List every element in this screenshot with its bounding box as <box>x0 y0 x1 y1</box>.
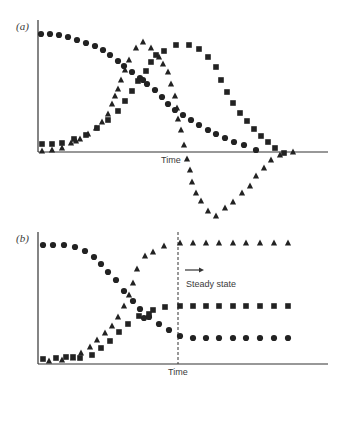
circle-marker <box>105 269 111 275</box>
circle-marker <box>188 117 194 123</box>
circle-marker <box>243 335 249 341</box>
triangle-marker <box>109 101 115 107</box>
arrow-right-icon <box>185 268 204 273</box>
square-marker <box>213 64 219 70</box>
circle-marker <box>83 40 89 46</box>
square-marker <box>251 126 257 132</box>
triangle-marker <box>77 136 83 142</box>
x-label-b: Time <box>168 367 188 377</box>
circle-marker <box>253 147 259 153</box>
circle-marker <box>231 139 237 145</box>
circle-marker <box>113 277 119 283</box>
circle-marker <box>230 335 236 341</box>
panel-a-label: (a) <box>16 20 29 33</box>
circle-marker <box>156 321 162 327</box>
circle-marker <box>222 135 228 141</box>
triangle-marker <box>105 111 111 117</box>
triangle-marker <box>175 116 181 122</box>
circle-marker <box>152 87 158 93</box>
square-marker <box>94 125 100 131</box>
square-marker <box>59 140 65 146</box>
circle-marker <box>144 81 150 87</box>
square-marker <box>98 345 104 351</box>
square-marker <box>153 52 159 58</box>
circle-marker <box>129 69 135 75</box>
square-marker <box>125 321 131 327</box>
x-label-a: Time <box>161 155 181 165</box>
circle-marker <box>100 47 106 53</box>
triangle-marker <box>126 292 132 298</box>
triangle-marker <box>121 303 127 309</box>
square-marker <box>83 132 89 138</box>
triangle-marker <box>160 61 166 67</box>
circle-marker <box>159 94 165 100</box>
circle-marker <box>91 254 97 260</box>
circle-marker <box>166 327 172 333</box>
triangle-marker <box>198 198 204 204</box>
circle-marker <box>47 31 53 37</box>
square-marker <box>122 98 128 104</box>
square-marker <box>224 89 230 95</box>
triangle-marker <box>94 337 100 343</box>
triangle-marker <box>216 240 222 246</box>
circle-marker <box>74 37 80 43</box>
square-marker <box>148 59 154 65</box>
triangle-marker <box>222 205 228 211</box>
triangle-marker <box>115 314 121 320</box>
square-marker <box>230 303 236 309</box>
panel-a: (a) Time <box>16 20 328 218</box>
triangle-marker <box>39 148 45 154</box>
triangle-marker <box>102 330 108 336</box>
triangle-marker <box>261 165 267 171</box>
circle-marker <box>38 31 44 37</box>
triangle-marker <box>181 142 187 148</box>
square-marker <box>190 303 196 309</box>
triangle-marker <box>134 266 140 272</box>
square-marker <box>53 355 59 361</box>
circle-marker <box>177 333 183 339</box>
figure: (a) Time (b) Steady state Time <box>0 0 342 442</box>
triangle-marker <box>193 190 199 196</box>
square-marker <box>150 307 156 313</box>
data-points-b <box>40 240 291 364</box>
triangle-marker <box>78 350 84 356</box>
panel-b: (b) Steady state Time <box>16 232 328 377</box>
circle-marker <box>61 242 67 248</box>
square-marker <box>49 141 55 147</box>
data-points-a <box>38 31 296 219</box>
square-marker <box>203 303 209 309</box>
triangle-marker <box>285 240 291 246</box>
circle-marker <box>56 32 62 38</box>
triangle-marker <box>187 167 193 173</box>
triangle-marker <box>230 240 236 246</box>
triangle-marker <box>203 240 209 246</box>
square-marker <box>244 118 250 124</box>
square-marker <box>258 133 264 139</box>
square-marker <box>129 88 135 94</box>
circle-marker <box>216 335 222 341</box>
circle-marker <box>213 131 219 137</box>
circle-marker <box>285 335 291 341</box>
circle-marker <box>65 34 71 40</box>
triangle-marker <box>239 190 245 196</box>
square-marker <box>71 136 77 142</box>
square-marker <box>196 46 202 52</box>
triangle-marker <box>150 249 156 255</box>
circle-marker <box>98 261 104 267</box>
triangle-marker <box>99 119 105 125</box>
triangle-marker <box>133 45 139 51</box>
square-marker <box>39 141 45 147</box>
triangle-marker <box>243 240 249 246</box>
triangle-marker <box>130 280 136 286</box>
square-marker <box>243 303 249 309</box>
circle-marker <box>115 58 121 64</box>
square-marker <box>136 313 142 319</box>
circle-marker <box>40 242 46 248</box>
square-marker <box>161 48 167 54</box>
square-marker <box>135 78 141 84</box>
square-marker <box>107 338 113 344</box>
square-marker <box>143 68 149 74</box>
square-marker <box>40 356 46 362</box>
triangle-marker <box>118 77 124 83</box>
square-marker <box>272 145 278 151</box>
